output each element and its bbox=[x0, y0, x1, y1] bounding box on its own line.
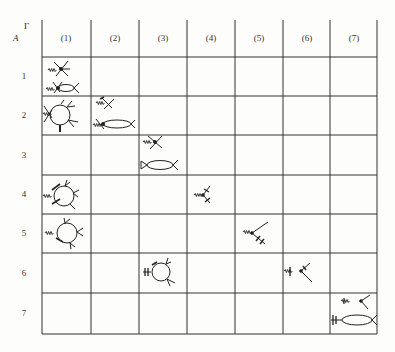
diagram-table bbox=[0, 0, 395, 352]
diagram-r4-c4 bbox=[194, 186, 210, 203]
diagram-r5-c1 bbox=[45, 218, 83, 249]
diagram-r6-c6 bbox=[284, 263, 312, 282]
diagram-r5-c5 bbox=[243, 222, 268, 244]
diagram-r2-c1 bbox=[43, 100, 78, 132]
diagram-r2-c2 bbox=[93, 97, 135, 129]
diagram-r4-c1 bbox=[43, 180, 79, 209]
diagram-r3-c3 bbox=[141, 136, 178, 170]
diagram-r1-c1 bbox=[46, 61, 79, 93]
diagram-r6-c3 bbox=[143, 258, 175, 286]
grid-lines bbox=[42, 20, 377, 334]
diagram-r7-c7 bbox=[331, 295, 377, 325]
